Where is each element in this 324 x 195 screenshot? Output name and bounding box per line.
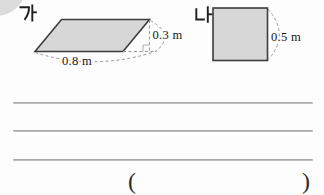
- na-label-glyph: 나: [194, 6, 213, 23]
- answer-line: [13, 102, 313, 104]
- right-angle-mark: [143, 45, 150, 52]
- answer-close-paren: ): [302, 169, 310, 193]
- parallelogram-shape: [35, 20, 150, 52]
- ga-label-text: 가: [18, 5, 32, 21]
- square-shape: [213, 8, 268, 61]
- na-label-text: 나: [194, 7, 208, 23]
- worksheet-page: 가 0.8 m 0.3 m 나 0.5 m ( ): [0, 0, 324, 195]
- base-dimension-arc: [35, 53, 153, 62]
- side-measurement-text: 0.5 m: [271, 30, 301, 44]
- base-measurement-text: 0.8 m: [62, 54, 92, 68]
- answer-line: [13, 159, 313, 161]
- answer-open-paren: (: [128, 169, 136, 193]
- figures-canvas: 가 0.8 m 0.3 m 나 0.5 m: [0, 0, 324, 100]
- height-measurement-text: 0.3 m: [153, 28, 183, 42]
- answer-line: [13, 130, 313, 132]
- ga-label-glyph: 가: [18, 5, 37, 22]
